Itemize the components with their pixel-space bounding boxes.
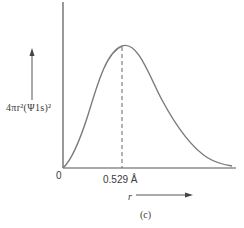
y-axis-label: 4πr²(Ψ1s)² <box>6 102 51 113</box>
origin-label: 0 <box>56 170 62 181</box>
radial-probability-chart: 4πr²(Ψ1s)² 0 0.529 Å r (c) <box>0 0 244 228</box>
peak-tick-label: 0.529 Å <box>103 174 137 185</box>
y-arrow-icon <box>30 48 35 56</box>
chart-canvas <box>0 0 244 228</box>
x-axis-label: r <box>128 191 132 202</box>
panel-label: (c) <box>140 209 151 220</box>
probability-curve <box>63 45 232 168</box>
x-arrow-icon <box>185 193 193 198</box>
